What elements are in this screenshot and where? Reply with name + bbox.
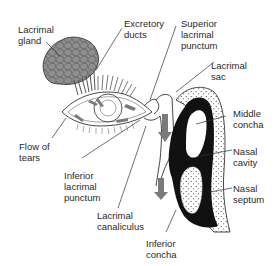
middle-and-inferior-concha [169,98,218,228]
label-inferior-lacrimal-punctum: Inferior lacrimal punctum [64,170,100,203]
label-inferior-concha: Inferior concha [146,238,177,260]
label-superior-lacrimal-punctum: Superior lacrimal punctum [181,18,217,51]
lacrimal-apparatus-diagram: Lacrimal gland Excretory ducts Superior … [0,0,278,266]
label-middle-concha: Middle concha [233,108,264,130]
label-flow-of-tears: Flow of tears [19,141,50,163]
label-nasal-septum: Nasal septum [233,183,264,205]
label-lacrimal-gland: Lacrimal gland [18,24,54,46]
inferior-flow-arrow [154,178,168,200]
label-nasal-cavity: Nasal cavity [233,146,257,168]
label-lacrimal-sac: Lacrimal sac [211,60,247,82]
label-excretory-ducts: Excretory ducts [124,18,164,40]
label-lacrimal-canaliculus: Lacrimal canaliculus [97,210,144,232]
